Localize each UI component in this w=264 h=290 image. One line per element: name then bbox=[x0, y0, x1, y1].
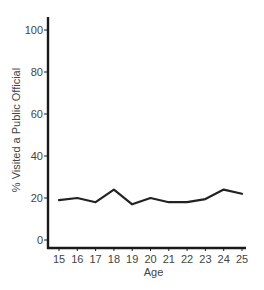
x-tick-label: 19 bbox=[126, 253, 138, 265]
y-tick-label: 40 bbox=[31, 150, 43, 162]
y-tick-label: 0 bbox=[37, 234, 43, 246]
y-tick-label: 20 bbox=[31, 192, 43, 204]
series-group bbox=[59, 190, 242, 205]
y-tick-label: 100 bbox=[25, 24, 43, 36]
series-line bbox=[59, 190, 242, 205]
x-tick-label: 20 bbox=[144, 253, 156, 265]
y-axis-title: % Visited a Public Official bbox=[10, 68, 22, 192]
x-tick-label: 15 bbox=[53, 253, 65, 265]
x-axis-ticks: 1516171819202122232425 bbox=[53, 248, 248, 265]
x-tick-label: 23 bbox=[199, 253, 211, 265]
line-chart: 020406080100 1516171819202122232425 Age … bbox=[0, 0, 264, 290]
x-tick-label: 22 bbox=[181, 253, 193, 265]
x-tick-label: 18 bbox=[108, 253, 120, 265]
y-axis-ticks: 020406080100 bbox=[25, 24, 48, 246]
y-tick-label: 80 bbox=[31, 66, 43, 78]
x-tick-label: 25 bbox=[236, 253, 248, 265]
x-tick-label: 16 bbox=[71, 253, 83, 265]
x-tick-label: 24 bbox=[218, 253, 230, 265]
x-tick-label: 21 bbox=[163, 253, 175, 265]
y-tick-label: 60 bbox=[31, 108, 43, 120]
x-axis-title: Age bbox=[144, 266, 164, 278]
x-tick-label: 17 bbox=[89, 253, 101, 265]
